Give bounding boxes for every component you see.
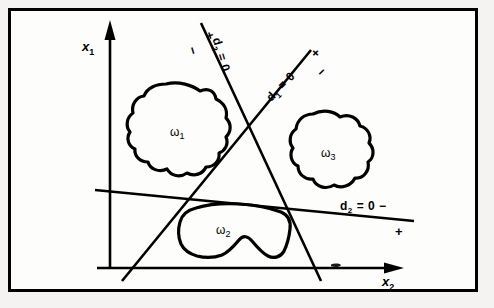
decision-label-d2-eq: = 0 bbox=[357, 199, 376, 213]
axis-label-x1-sub: 1 bbox=[89, 47, 94, 57]
region-label-omega-1-text: ω bbox=[170, 125, 179, 139]
axis-label-x1: x1 bbox=[82, 40, 94, 57]
decision-sign-d2-positive: + bbox=[395, 225, 403, 238]
axis-x2 bbox=[97, 263, 404, 274]
region-label-omega-3-sub: 3 bbox=[330, 152, 335, 162]
region-label-omega-2: ω2 bbox=[216, 224, 230, 239]
axis-label-x2-sub: 2 bbox=[389, 282, 394, 292]
axis-x1 bbox=[105, 20, 116, 268]
decision-label-d2: d2 = 0 − bbox=[340, 200, 387, 215]
axis-smudge bbox=[331, 263, 341, 267]
region-label-omega-2-text: ω bbox=[216, 223, 225, 237]
decision-label-d2-sub: 2 bbox=[348, 206, 353, 215]
decision-sign-d2-negative: − bbox=[379, 199, 387, 213]
region-label-omega-1-sub: 1 bbox=[179, 131, 184, 141]
region-label-omega-3-text: ω bbox=[321, 146, 330, 160]
classification-diagram bbox=[0, 0, 494, 308]
region-label-omega-1: ω1 bbox=[170, 126, 184, 141]
region-label-omega-3: ω3 bbox=[321, 147, 335, 162]
figure-page: x1 x2 ω1 ω2 ω3 d3 = 0 + − d1 = 0 + − d2 … bbox=[0, 0, 494, 308]
axis-label-x2: x2 bbox=[382, 275, 394, 292]
decision-label-d3-sub: 3 bbox=[210, 45, 220, 52]
decision-label-d2-text: d bbox=[340, 199, 348, 213]
region-omega-2 bbox=[179, 204, 291, 258]
region-label-omega-2-sub: 2 bbox=[225, 229, 230, 239]
